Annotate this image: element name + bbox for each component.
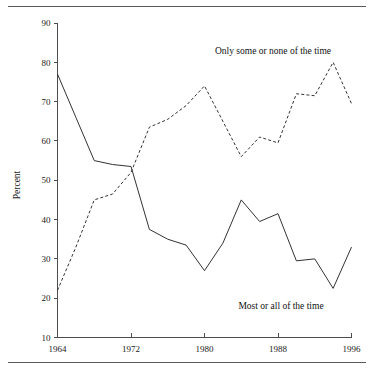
figure-caption [8,366,366,377]
line-chart: Percent 102030405060708090 1964197219801… [0,10,374,360]
y-tick-label: 80 [42,58,52,68]
y-tick-label: 40 [42,215,52,225]
x-axis-ticks [58,333,352,338]
y-tick-label: 90 [42,18,52,28]
y-tick-label: 70 [42,97,52,107]
y-tick-label: 20 [42,293,52,303]
bottom-horizontal-rule [8,362,366,363]
series-most-or-all [58,74,352,288]
y-axis-label: Percent [12,170,22,199]
y-tick-label: 10 [42,333,52,343]
annotation-only-some-or-none: Only some or none of the time [215,46,331,56]
x-tick-label: 1972 [122,344,140,354]
x-tick-label: 1964 [49,344,68,354]
series-only-some-or-none [58,62,352,290]
top-horizontal-rule [8,6,366,7]
y-axis-ticks [54,23,58,338]
x-tick-label: 1988 [269,344,288,354]
chart-figure: Percent 102030405060708090 1964197219801… [0,10,374,360]
y-tick-label: 50 [42,175,52,185]
figure-page: Percent 102030405060708090 1964197219801… [0,0,374,378]
annotation-most-or-all: Most or all of the time [238,301,323,311]
x-tick-label: 1980 [196,344,215,354]
y-tick-label: 30 [42,254,52,264]
x-tick-label: 1996 [343,344,362,354]
y-axis-tick-labels: 102030405060708090 [42,18,52,343]
x-axis-tick-labels: 19641972198019881996 [49,344,362,354]
y-tick-label: 60 [42,136,52,146]
